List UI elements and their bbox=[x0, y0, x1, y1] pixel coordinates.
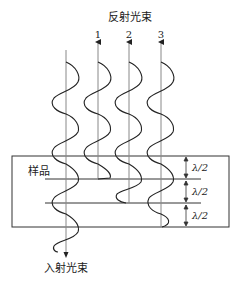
half-lambda-label-3: λ/2 bbox=[191, 210, 208, 221]
thin-film-interference-diagram: 反射光束 1 2 3 样品 λ/2 λ/2 λ/2 入射光束 bbox=[0, 0, 243, 289]
incident-arrow-head bbox=[64, 252, 69, 258]
reflected-beam-label: 反射光束 bbox=[108, 10, 152, 24]
half-wavelength-markers bbox=[184, 157, 188, 226]
incident-beam-label: 入射光束 bbox=[44, 261, 88, 275]
beam-1-label: 1 bbox=[95, 29, 101, 40]
half-lambda-label-2: λ/2 bbox=[191, 186, 208, 197]
beam-3-label: 3 bbox=[158, 29, 164, 40]
beam-2-label: 2 bbox=[126, 29, 132, 40]
half-lambda-label-1: λ/2 bbox=[191, 162, 208, 173]
sample-label: 样品 bbox=[28, 164, 50, 178]
